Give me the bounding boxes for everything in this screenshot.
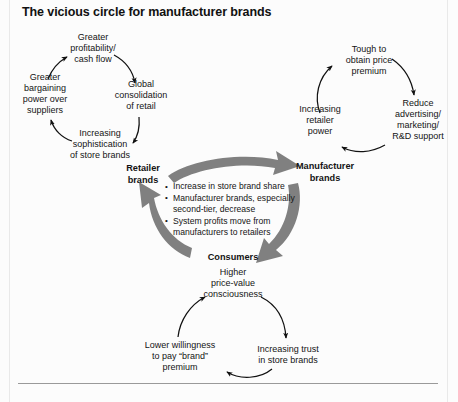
- core-cycle-bullets: Increase in store brand share Manufactur…: [165, 181, 325, 239]
- node-increasing-trust-in-store-brands: Increasing trust in store brands: [240, 344, 336, 366]
- node-greater-profitability: Greater profitability/ cash flow: [57, 32, 129, 65]
- arrow-pricevalue-to-trust: [261, 297, 286, 338]
- list-item: Increase in store brand share: [165, 181, 325, 192]
- node-tough-to-obtain-price-premium: Tough to obtain price premium: [333, 44, 405, 77]
- node-global-consolidation: Global consolidation of retail: [104, 79, 178, 112]
- list-item: System profits move from manufacturers t…: [165, 216, 325, 238]
- arrow-retailer-to-manufacturer: [168, 151, 300, 183]
- diagram-page: The vicious circle for manufacturer bran…: [0, 0, 458, 402]
- node-consumers: Consumers: [200, 252, 266, 264]
- node-increasing-sophistication: Increasing sophistication of store brand…: [58, 128, 142, 161]
- list-item: Manufacturer brands, especially second-t…: [165, 193, 325, 215]
- node-higher-price-value-consciousness: Higher price-value consciousness: [190, 267, 276, 300]
- node-greater-bargaining-power: Greater bargaining power over suppliers: [8, 72, 82, 116]
- node-lower-willingness-to-pay: Lower willingness to pay “brand” premium: [130, 340, 230, 373]
- arrow-trust-to-lowerwillingness: [227, 369, 272, 377]
- node-reduce-advertising: Reduce advertising/ marketing/ R&D suppo…: [381, 98, 455, 142]
- node-increasing-retailer-power: Increasing retailer power: [289, 104, 351, 137]
- arrow-lowerwillingness-to-pricevalue: [178, 297, 205, 337]
- arrow-reduceadvertising-to-retailerpower: [342, 145, 385, 152]
